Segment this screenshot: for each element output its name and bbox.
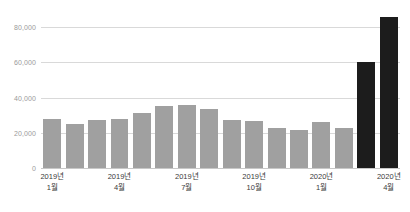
bar [312,122,330,168]
bar-chart: 020,00040,00060,00080,000 2019년1월2019년4월… [0,0,410,212]
bar [200,109,218,168]
bar [178,105,196,168]
y-tick-label: 80,000 [14,24,36,31]
x-tick-year: 2019년 [108,171,132,182]
y-tick-label: 60,000 [14,59,36,66]
y-tick-label: 0 [32,165,36,172]
bar [43,119,61,168]
y-tick-label: 20,000 [14,129,36,136]
bar [357,62,375,168]
bar [88,120,106,168]
bar [268,128,286,168]
x-tick-year: 2020년 [310,171,334,182]
x-tick-label: 2019년10월 [242,171,266,193]
x-tick-year: 2019년 [175,171,199,182]
x-tick-year: 2019년 [40,171,64,182]
bar [380,17,398,168]
bars-layer [41,13,400,168]
x-tick-label: 2020년1월 [310,171,334,193]
x-tick-month: 4월 [377,182,401,193]
axis-baseline [41,168,400,169]
plot-area [41,13,400,168]
x-tick-month: 10월 [242,182,266,193]
x-tick-label: 2019년4월 [108,171,132,193]
x-tick-label: 2019년7월 [175,171,199,193]
x-tick-year: 2019년 [242,171,266,182]
bar [155,106,173,168]
y-axis: 020,00040,00060,00080,000 [0,0,41,212]
bar [245,121,263,168]
x-tick-month: 4월 [108,182,132,193]
bar [111,119,129,168]
y-tick-label: 40,000 [14,94,36,101]
bar [290,130,308,168]
x-tick-month: 7월 [175,182,199,193]
x-tick-label: 2020년4월 [377,171,401,193]
x-tick-label: 2019년1월 [40,171,64,193]
bar [66,124,84,168]
x-tick-month: 1월 [310,182,334,193]
x-tick-month: 1월 [40,182,64,193]
bar [335,128,353,168]
bar [133,113,151,168]
bar [223,120,241,168]
x-axis: 2019년1월2019년4월2019년7월2019년10월2020년1월2020… [41,171,400,209]
x-tick-year: 2020년 [377,171,401,182]
